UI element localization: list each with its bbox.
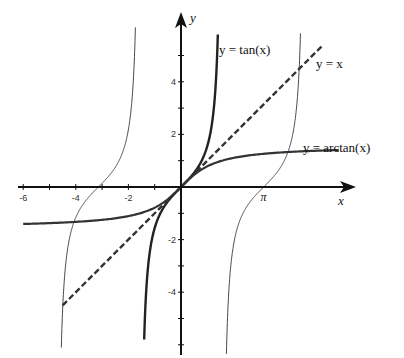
x-tick-label: -6 [19,193,27,203]
labels-group: x y y = tan(x) y = x y = arctan(x) [188,10,370,208]
y-axis-label: y [188,10,196,25]
y-tick-label: 4 [171,77,176,87]
plot-canvas: -6-4-2π42-2-4 x y y = tan(x) y = x y = a… [0,0,404,358]
y-tick-label: -2 [168,235,176,245]
x-axis-label: x [337,193,344,208]
x-tick-label: π [261,190,268,204]
identity-curve-label: y = x [316,56,343,71]
y-tick-label: 2 [171,129,176,139]
x-tick-label: -4 [72,193,80,203]
x-tick-label: -2 [124,193,132,203]
arctan-curve-label: y = arctan(x) [303,140,370,155]
y-tick-label: -4 [168,287,176,297]
tan-curve-label: y = tan(x) [219,42,270,57]
